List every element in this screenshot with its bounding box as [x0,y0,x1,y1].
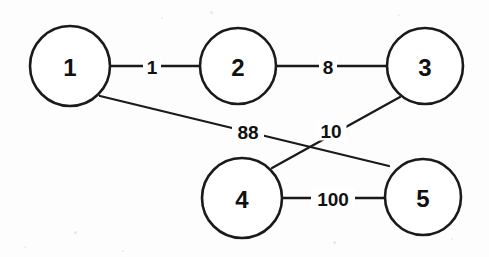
edge-weight: 10 [316,120,347,142]
edge-weight: 1 [143,56,161,78]
node-label: 3 [418,54,431,81]
node-label: 1 [63,54,76,81]
graph-node[interactable]: 1 [30,26,110,106]
graph-node[interactable]: 4 [202,158,282,238]
edge-weight-label: 88 [237,122,258,143]
graph-node[interactable]: 2 [200,28,276,104]
graph-figure: 12345 188810100 [0,0,489,257]
edge-weight-label: 100 [317,189,349,210]
node-label: 4 [235,186,249,213]
graph-node[interactable]: 3 [387,28,463,104]
edge-weight-label: 1 [147,57,158,78]
edge-weight: 8 [319,56,337,78]
node-label: 5 [416,185,429,212]
edge-weight-label: 10 [320,121,341,142]
edge-weight: 100 [311,188,355,210]
diagram-canvas: 12345 188810100 [0,0,489,257]
graph-node[interactable]: 5 [385,159,461,235]
edge-weight: 88 [232,121,264,143]
edge-weight-label: 8 [323,57,334,78]
node-label: 2 [231,54,244,81]
